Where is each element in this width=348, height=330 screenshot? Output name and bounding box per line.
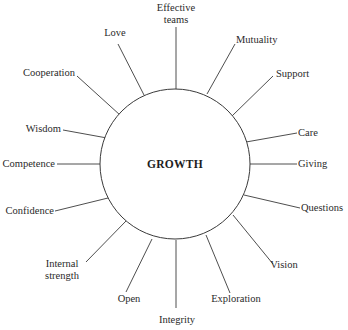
spoke-label-giving: Giving (298, 158, 328, 169)
spoke-label-line: Open (118, 293, 141, 304)
spoke-label-line: Care (298, 127, 318, 138)
spoke-label-line: Effective (157, 2, 196, 13)
spoke-label-line: Questions (301, 202, 343, 213)
spoke-label-line: Mutuality (236, 34, 278, 45)
spoke-label-integrity: Integrity (159, 314, 196, 325)
spoke-line-mutuality (207, 44, 235, 94)
spoke-label-line: Exploration (211, 293, 261, 304)
spoke-line-cooperation (77, 76, 120, 115)
spoke-label-line: teams (164, 14, 189, 25)
spoke-line-exploration (206, 235, 230, 293)
spoke-label-questions: Questions (301, 202, 343, 213)
spoke-label-open: Open (118, 293, 141, 304)
spoke-label-line: Vision (270, 259, 298, 270)
spoke-label-line: Love (104, 27, 126, 38)
spoke-label-love: Love (104, 27, 126, 38)
spoke-label-wisdom: Wisdom (26, 123, 61, 134)
spoke-label-cooperation: Cooperation (23, 67, 76, 78)
spoke-label-line: Confidence (6, 205, 55, 216)
spoke-line-open (126, 239, 152, 292)
spoke-label-line: Support (276, 68, 309, 79)
spoke-line-vision (233, 215, 273, 264)
spoke-label-vision: Vision (270, 259, 298, 270)
spoke-label-line: Integrity (159, 314, 196, 325)
spoke-label-effective-teams: Effectiveteams (157, 2, 196, 25)
spoke-line-internal-strength (86, 221, 126, 262)
spoke-line-support (232, 76, 273, 116)
spoke-label-line: Internal (46, 258, 79, 269)
spoke-label-competence: Competence (3, 158, 56, 169)
spoke-label-line: Giving (298, 158, 328, 169)
spoke-label-line: Cooperation (23, 67, 76, 78)
spoke-label-exploration: Exploration (211, 293, 261, 304)
spoke-label-line: Competence (3, 158, 56, 169)
spoke-label-line: strength (45, 270, 80, 281)
spoke-line-care (246, 133, 297, 142)
spoke-label-internal-strength: Internalstrength (45, 258, 80, 281)
center-label: GROWTH (147, 158, 203, 170)
spoke-label-mutuality: Mutuality (236, 34, 278, 45)
spoke-label-support: Support (276, 68, 309, 79)
spoke-line-love (118, 44, 144, 95)
spoke-line-questions (244, 195, 300, 208)
spoke-label-care: Care (298, 127, 318, 138)
spoke-label-confidence: Confidence (6, 205, 55, 216)
spoke-line-confidence (55, 198, 108, 211)
spoke-line-wisdom (63, 130, 107, 138)
growth-diagram: GROWTH EffectiveteamsLoveMutualityCooper… (0, 0, 348, 330)
spoke-label-line: Wisdom (26, 123, 61, 134)
